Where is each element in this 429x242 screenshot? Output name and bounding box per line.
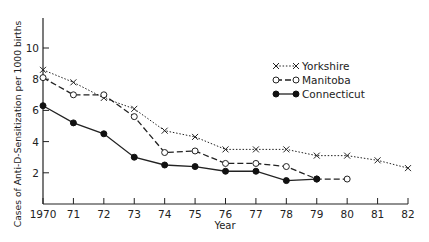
data-point-marker <box>101 92 107 98</box>
legend-item-manitoba: Manitoba <box>273 74 351 86</box>
data-point-marker <box>253 168 259 174</box>
x-tick-label: 75 <box>188 208 201 220</box>
data-point-marker <box>70 120 76 126</box>
data-point-marker <box>192 148 198 154</box>
x-tick-label: 81 <box>371 208 384 220</box>
data-point-marker <box>253 160 259 166</box>
data-point-marker <box>223 168 229 174</box>
legend-marker <box>273 91 279 97</box>
data-point-marker <box>283 164 289 170</box>
data-point-marker <box>70 92 76 98</box>
data-point-marker <box>223 146 229 152</box>
x-tick-label: 72 <box>97 208 110 220</box>
axes: 1970717273747576777879808182246810 <box>26 18 415 220</box>
legend-label: Yorkshire <box>301 60 349 72</box>
x-axis-label: Year <box>213 220 236 231</box>
data-point-marker <box>314 176 320 182</box>
x-tick-label: 80 <box>340 208 353 220</box>
x-tick-label: 82 <box>401 208 414 220</box>
legend-marker <box>273 77 279 83</box>
y-tick-label: 2 <box>32 167 39 179</box>
series-line <box>43 70 408 168</box>
x-tick-label: 78 <box>280 208 293 220</box>
y-tick-label: 10 <box>26 42 39 54</box>
x-tick-label: 73 <box>128 208 141 220</box>
x-tick-label: 79 <box>310 208 323 220</box>
series-line <box>43 106 317 181</box>
legend-marker <box>293 91 299 97</box>
series-layer <box>40 67 411 184</box>
data-point-marker <box>223 160 229 166</box>
data-point-marker <box>162 150 168 156</box>
y-axis-label: Cases of Anti-D-Sensitization per 1000 b… <box>12 21 23 228</box>
data-point-marker <box>131 154 137 160</box>
y-tick-label: 4 <box>32 136 39 148</box>
data-point-marker <box>131 114 137 120</box>
legend-marker <box>273 63 279 69</box>
x-tick-label: 74 <box>158 208 172 220</box>
x-tick-label: 76 <box>219 208 233 220</box>
data-point-marker <box>40 75 46 81</box>
x-tick-label: 71 <box>67 208 80 220</box>
data-point-marker <box>162 162 168 168</box>
x-tick-label: 77 <box>249 208 262 220</box>
series-yorkshire <box>40 67 411 171</box>
legend-label: Connecticut <box>302 88 365 100</box>
data-point-marker <box>40 103 46 109</box>
legend-label: Manitoba <box>302 74 351 86</box>
data-point-marker <box>283 146 289 152</box>
data-point-marker <box>405 165 411 171</box>
legend: YorkshireManitobaConnecticut <box>273 60 365 100</box>
y-tick-label: 8 <box>32 73 39 85</box>
y-tick-label: 6 <box>32 104 39 116</box>
data-point-marker <box>344 176 350 182</box>
data-point-marker <box>192 164 198 170</box>
line-chart: 1970717273747576777879808182246810 Yorks… <box>0 0 429 242</box>
series-connecticut <box>40 103 320 184</box>
legend-item-yorkshire: Yorkshire <box>273 60 349 72</box>
data-point-marker <box>131 106 137 112</box>
data-point-marker <box>101 131 107 137</box>
data-point-marker <box>283 178 289 184</box>
data-point-marker <box>70 79 76 85</box>
legend-marker <box>293 77 299 83</box>
legend-item-connecticut: Connecticut <box>273 88 365 100</box>
data-point-marker <box>375 157 381 163</box>
x-tick-label: 1970 <box>30 208 57 220</box>
